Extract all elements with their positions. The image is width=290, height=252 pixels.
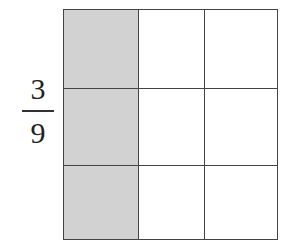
fraction-label: 3 9 <box>18 74 58 148</box>
fraction-denominator: 9 <box>18 118 58 148</box>
grid-cell <box>205 166 277 239</box>
fraction-bar <box>22 110 54 112</box>
grid-cell-shaded <box>64 166 139 239</box>
grid-cell-shaded <box>64 89 139 166</box>
grid-cell <box>139 166 205 239</box>
grid-cell-shaded <box>64 10 139 89</box>
fraction-numerator: 3 <box>18 74 58 106</box>
fraction-grid <box>63 9 278 240</box>
grid-cell <box>139 89 205 166</box>
grid-cell <box>205 89 277 166</box>
grid-cell <box>139 10 205 89</box>
grid-cell <box>205 10 277 89</box>
